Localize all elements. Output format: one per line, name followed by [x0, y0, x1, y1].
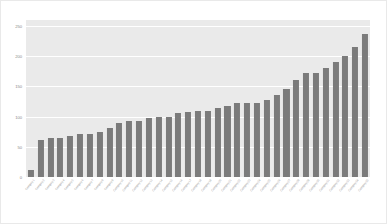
x-axis-tick-label: Category 7: [84, 179, 95, 191]
bar-slot: [65, 20, 75, 177]
y-axis-tick-label: 0: [20, 175, 22, 180]
bar[interactable]: [126, 121, 132, 177]
bar[interactable]: [352, 47, 358, 177]
bar[interactable]: [38, 140, 44, 177]
bar[interactable]: [215, 108, 221, 177]
bar[interactable]: [97, 132, 103, 177]
bar[interactable]: [293, 80, 299, 177]
bar-slot: [144, 20, 154, 177]
bar-slot: [242, 20, 252, 177]
bar-slot: [291, 20, 301, 177]
bar-slot: [311, 20, 321, 177]
bar[interactable]: [234, 103, 240, 177]
bar[interactable]: [274, 95, 280, 177]
bar[interactable]: [195, 111, 201, 177]
bar[interactable]: [283, 89, 289, 177]
bar[interactable]: [244, 103, 250, 177]
bar[interactable]: [362, 34, 368, 177]
bar-slot: [164, 20, 174, 177]
bar-slot: [154, 20, 164, 177]
bar-slot: [134, 20, 144, 177]
bar-slot: [26, 20, 36, 177]
bar-slot: [95, 20, 105, 177]
bar-slot: [55, 20, 65, 177]
bar-slot: [282, 20, 292, 177]
bar[interactable]: [106, 128, 112, 178]
x-axis-tick-label: Category 3: [45, 179, 56, 191]
y-axis-tick-label: 50: [18, 144, 22, 149]
bar-slot: [124, 20, 134, 177]
bar[interactable]: [205, 111, 211, 177]
bar-slot: [213, 20, 223, 177]
plot-area: [26, 20, 370, 177]
bar[interactable]: [313, 73, 319, 177]
bar[interactable]: [77, 134, 83, 177]
bar-slot: [203, 20, 213, 177]
bar-slot: [262, 20, 272, 177]
bar[interactable]: [156, 117, 162, 177]
bar-slot: [36, 20, 46, 177]
bar[interactable]: [67, 136, 73, 177]
y-axis-tick-label: 100: [15, 114, 22, 119]
bar-slot: [321, 20, 331, 177]
bar[interactable]: [165, 117, 171, 177]
x-axis-tick-label: Category 1: [25, 179, 36, 191]
bar[interactable]: [28, 170, 34, 177]
x-axis-tick-label: Category 35: [358, 179, 370, 193]
x-axis-tick-label: Category 8: [94, 179, 105, 191]
bar-slot: [350, 20, 360, 177]
y-axis-tick-label: 150: [15, 84, 22, 89]
bar[interactable]: [57, 138, 63, 177]
bar[interactable]: [146, 118, 152, 177]
bar[interactable]: [116, 123, 122, 177]
bar-slot: [360, 20, 370, 177]
bar[interactable]: [303, 73, 309, 177]
bar[interactable]: [87, 134, 93, 177]
bar-slot: [85, 20, 95, 177]
bar[interactable]: [264, 100, 270, 177]
bar-slot: [301, 20, 311, 177]
bar-slot: [46, 20, 56, 177]
bar[interactable]: [323, 68, 329, 177]
y-axis-tick-label: 250: [15, 24, 22, 29]
y-axis: 050100150200250: [0, 20, 25, 177]
bar-series: [26, 20, 370, 177]
bar-slot: [223, 20, 233, 177]
y-axis-tick-label: 200: [15, 54, 22, 59]
bar-slot: [272, 20, 282, 177]
bar[interactable]: [185, 112, 191, 177]
bar[interactable]: [254, 103, 260, 177]
bar[interactable]: [175, 113, 181, 177]
bar-slot: [232, 20, 242, 177]
bar[interactable]: [342, 56, 348, 177]
bar-slot: [114, 20, 124, 177]
bar-slot: [75, 20, 85, 177]
bar-chart-figure: 050100150200250 Category 1Category 2Cate…: [0, 0, 387, 224]
bar-slot: [331, 20, 341, 177]
bar-slot: [105, 20, 115, 177]
bar-slot: [183, 20, 193, 177]
bar-slot: [252, 20, 262, 177]
bar-slot: [173, 20, 183, 177]
bar-slot: [341, 20, 351, 177]
bar[interactable]: [136, 121, 142, 177]
bar-slot: [193, 20, 203, 177]
bar[interactable]: [333, 62, 339, 177]
x-axis: Category 1Category 2Category 3Category 4…: [26, 177, 370, 222]
bar[interactable]: [48, 138, 54, 177]
x-axis-tick-label: Category 2: [35, 179, 46, 191]
bar[interactable]: [224, 106, 230, 177]
